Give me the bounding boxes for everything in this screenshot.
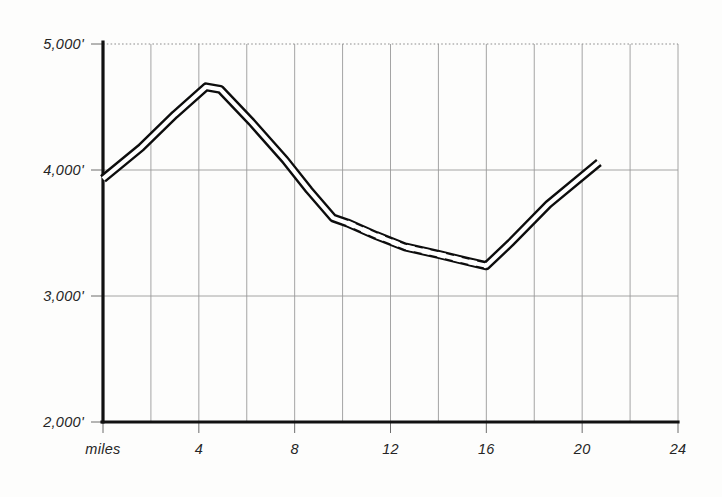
y-axis-tick-label: 5,000' [43, 36, 85, 52]
x-axis-tick-label: 12 [382, 441, 399, 457]
x-axis-unit-label: miles [85, 441, 120, 457]
x-axis-tick-label: 20 [573, 441, 591, 457]
y-axis-tick-label: 2,000' [42, 414, 85, 430]
y-axis-tick-label: 4,000' [43, 162, 85, 178]
x-axis-tick-label: 24 [669, 441, 687, 457]
x-axis-tick-label: 4 [195, 441, 203, 457]
chart-canvas: 5,000'4,000'3,000'2,000' miles4812162024 [0, 0, 722, 497]
x-axis-tick-label: 16 [478, 441, 495, 457]
y-axis-tick-labels: 5,000'4,000'3,000'2,000' [42, 36, 85, 430]
elevation-profile-chart: 5,000'4,000'3,000'2,000' miles4812162024 [0, 0, 722, 497]
x-axis-tick-labels: miles4812162024 [85, 441, 686, 457]
profile-band-fill [103, 87, 599, 266]
y-axis-tick-label: 3,000' [43, 288, 85, 304]
x-axis-tick-label: 8 [290, 441, 298, 457]
elevation-profile-line [103, 87, 599, 266]
